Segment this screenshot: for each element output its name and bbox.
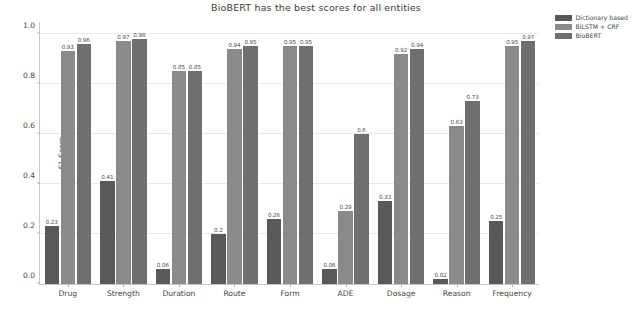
x-axis-tick-mark bbox=[179, 284, 180, 287]
bar[interactable]: 0.85 bbox=[172, 71, 187, 284]
bar-value-label: 0.85 bbox=[189, 64, 201, 70]
bar-value-label: 0.23 bbox=[46, 219, 58, 225]
bar[interactable]: 0.06 bbox=[322, 269, 337, 284]
bar-group: 0.250.950.97Frequency bbox=[484, 22, 540, 284]
bar-value-label: 0.6 bbox=[357, 127, 366, 133]
legend-item[interactable]: BioBERT bbox=[555, 32, 628, 39]
bar-value-label: 0.2 bbox=[214, 227, 223, 233]
bar[interactable]: 0.06 bbox=[156, 269, 171, 284]
bar[interactable]: 0.96 bbox=[77, 44, 92, 284]
bar-group: 0.410.970.98Strength bbox=[96, 22, 152, 284]
bar[interactable]: 0.29 bbox=[338, 211, 353, 284]
x-axis-tick-label: Frequency bbox=[493, 289, 532, 298]
bar-group: 0.230.930.96Drug bbox=[40, 22, 96, 284]
y-axis-tick-label: 0.0 bbox=[23, 271, 35, 280]
bar-value-label: 0.93 bbox=[62, 44, 74, 50]
chart-legend: Dictionary basedBiLSTM + CRFBioBERT bbox=[555, 14, 628, 39]
legend-swatch-icon bbox=[555, 15, 572, 21]
bar[interactable]: 0.6 bbox=[354, 134, 369, 284]
bar[interactable]: 0.25 bbox=[489, 221, 504, 284]
bar[interactable]: 0.97 bbox=[116, 41, 131, 284]
bar[interactable]: 0.23 bbox=[45, 226, 60, 284]
y-axis-tick-label: 0.8 bbox=[23, 70, 35, 79]
x-axis-tick-mark bbox=[234, 284, 235, 287]
y-axis-tick-label: 0.4 bbox=[23, 170, 35, 179]
x-axis-tick-mark bbox=[512, 284, 513, 287]
x-axis-tick-mark bbox=[457, 284, 458, 287]
bar[interactable]: 0.26 bbox=[267, 219, 282, 284]
x-axis-tick-label: Form bbox=[280, 289, 299, 298]
y-axis-tick-label: 1.0 bbox=[23, 20, 35, 29]
bar[interactable]: 0.98 bbox=[132, 39, 147, 284]
bar-value-label: 0.06 bbox=[324, 262, 336, 268]
bar[interactable]: 0.93 bbox=[61, 51, 76, 284]
bar-group: 0.260.950.95Form bbox=[262, 22, 318, 284]
x-axis-tick-label: Duration bbox=[162, 289, 195, 298]
bar[interactable]: 0.33 bbox=[378, 201, 393, 284]
bar[interactable]: 0.94 bbox=[410, 49, 425, 284]
bar-value-label: 0.96 bbox=[78, 37, 90, 43]
bar-value-label: 0.98 bbox=[133, 32, 145, 38]
x-axis-tick-mark bbox=[290, 284, 291, 287]
bar-group: 0.020.630.73Reason bbox=[429, 22, 485, 284]
x-axis-tick-label: Reason bbox=[443, 289, 471, 298]
legend-swatch-icon bbox=[555, 33, 572, 39]
legend-label: BiLSTM + CRF bbox=[576, 23, 620, 30]
bar[interactable]: 0.95 bbox=[299, 46, 314, 284]
plot-area: F1 Score 0.00.20.40.60.81.00.230.930.96D… bbox=[39, 22, 539, 285]
x-axis-tick-mark bbox=[401, 284, 402, 287]
bar-value-label: 0.73 bbox=[467, 94, 479, 100]
chart-figure: BioBERT has the best scores for all enti… bbox=[0, 0, 632, 318]
bar-value-label: 0.92 bbox=[395, 47, 407, 53]
bar-value-label: 0.29 bbox=[340, 204, 352, 210]
bar-value-label: 0.95 bbox=[300, 39, 312, 45]
bar-group: 0.060.290.6ADE bbox=[318, 22, 374, 284]
bar-value-label: 0.25 bbox=[490, 214, 502, 220]
x-axis-tick-mark bbox=[123, 284, 124, 287]
bar[interactable]: 0.85 bbox=[188, 71, 203, 284]
chart-title: BioBERT has the best scores for all enti… bbox=[0, 2, 632, 13]
bar-value-label: 0.94 bbox=[411, 42, 423, 48]
y-axis-tick-label: 0.6 bbox=[23, 120, 35, 129]
bar-value-label: 0.06 bbox=[157, 262, 169, 268]
bar-value-label: 0.97 bbox=[117, 34, 129, 40]
legend-label: BioBERT bbox=[576, 32, 602, 39]
legend-swatch-icon bbox=[555, 24, 572, 30]
bar-value-label: 0.26 bbox=[268, 212, 280, 218]
bar[interactable]: 0.63 bbox=[449, 126, 464, 284]
bar-group: 0.20.940.95Route bbox=[207, 22, 263, 284]
bar-value-label: 0.33 bbox=[379, 194, 391, 200]
x-axis-tick-mark bbox=[346, 284, 347, 287]
x-axis-tick-label: Route bbox=[223, 289, 245, 298]
x-axis-tick-label: Strength bbox=[107, 289, 140, 298]
legend-label: Dictionary based bbox=[576, 14, 628, 21]
bar[interactable]: 0.95 bbox=[283, 46, 298, 284]
bar-value-label: 0.97 bbox=[522, 34, 534, 40]
bar[interactable]: 0.97 bbox=[521, 41, 536, 284]
legend-item[interactable]: Dictionary based bbox=[555, 14, 628, 21]
bar-value-label: 0.95 bbox=[284, 39, 296, 45]
bar[interactable]: 0.2 bbox=[211, 234, 226, 284]
bar-value-label: 0.95 bbox=[506, 39, 518, 45]
bar-value-label: 0.41 bbox=[101, 174, 113, 180]
bar-value-label: 0.95 bbox=[244, 39, 256, 45]
bar-value-label: 0.63 bbox=[451, 119, 463, 125]
bar[interactable]: 0.95 bbox=[505, 46, 520, 284]
legend-item[interactable]: BiLSTM + CRF bbox=[555, 23, 628, 30]
y-axis-tick-label: 0.2 bbox=[23, 220, 35, 229]
bar-value-label: 0.85 bbox=[173, 64, 185, 70]
bar[interactable]: 0.95 bbox=[243, 46, 258, 284]
bar[interactable]: 0.73 bbox=[465, 101, 480, 284]
bar[interactable]: 0.02 bbox=[433, 279, 448, 284]
x-axis-tick-label: Dosage bbox=[387, 289, 416, 298]
bar[interactable]: 0.41 bbox=[100, 181, 115, 284]
bar-group: 0.330.920.94Dosage bbox=[373, 22, 429, 284]
x-axis-tick-mark bbox=[68, 284, 69, 287]
bar-value-label: 0.02 bbox=[435, 272, 447, 278]
bar-group: 0.060.850.85Duration bbox=[151, 22, 207, 284]
bar[interactable]: 0.94 bbox=[227, 49, 242, 284]
bar[interactable]: 0.92 bbox=[394, 54, 409, 284]
x-axis-tick-label: Drug bbox=[58, 289, 77, 298]
x-axis-tick-label: ADE bbox=[338, 289, 354, 298]
bar-value-label: 0.94 bbox=[228, 42, 240, 48]
